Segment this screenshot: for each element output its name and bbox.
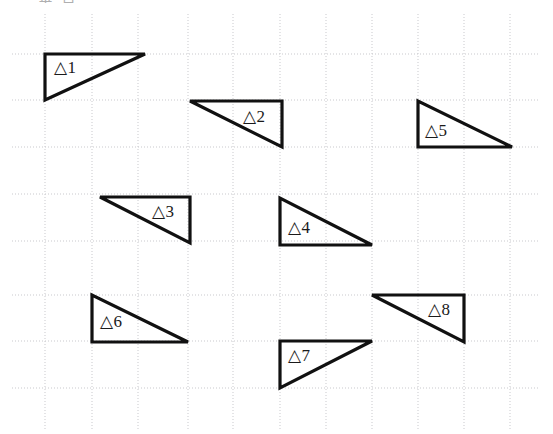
triangle-8-label: △8 [428, 301, 451, 318]
triangle-5-label: △5 [425, 122, 448, 139]
worksheet-canvas: 垂 直 △1△2△3△4△5△6△7△8 [0, 0, 553, 434]
triangle-1-label: △1 [54, 59, 77, 76]
triangles-layer [0, 0, 553, 434]
triangle-3-label: △3 [152, 203, 175, 220]
triangle-6-label: △6 [100, 313, 123, 330]
triangle-4-label: △4 [288, 219, 311, 236]
triangle-2-label: △2 [243, 108, 266, 125]
triangle-7-label: △7 [288, 347, 311, 364]
triangle-2 [190, 101, 282, 147]
triangle-3 [100, 197, 190, 243]
